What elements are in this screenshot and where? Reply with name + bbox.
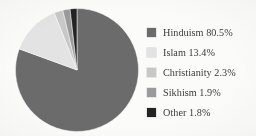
legend-swatch-hinduism	[147, 28, 156, 37]
legend-item-sikhism[interactable]: Sikhism 1.9%	[147, 82, 255, 102]
pie-chart-figure: Hinduism 80.5% Islam 13.4% Christianity …	[0, 0, 256, 136]
legend-item-hinduism[interactable]: Hinduism 80.5%	[147, 22, 255, 42]
pie-chart-plot-area	[15, 8, 139, 132]
legend-swatch-christianity	[147, 68, 156, 77]
pie-slice-group	[15, 9, 138, 132]
pie-chart-svg	[15, 8, 139, 132]
legend-label-other: Other 1.8%	[163, 107, 210, 118]
legend-item-christianity[interactable]: Christianity 2.3%	[147, 62, 255, 82]
legend-item-islam[interactable]: Islam 13.4%	[147, 42, 255, 62]
legend-item-other[interactable]: Other 1.8%	[147, 102, 255, 122]
legend-label-islam: Islam 13.4%	[163, 47, 215, 58]
legend-label-christianity: Christianity 2.3%	[163, 67, 236, 78]
legend-swatch-other	[147, 108, 156, 117]
legend-swatch-islam	[147, 48, 156, 57]
legend-label-sikhism: Sikhism 1.9%	[163, 87, 221, 98]
chart-legend: Hinduism 80.5% Islam 13.4% Christianity …	[147, 22, 255, 122]
legend-swatch-sikhism	[147, 88, 156, 97]
legend-label-hinduism: Hinduism 80.5%	[163, 27, 233, 38]
